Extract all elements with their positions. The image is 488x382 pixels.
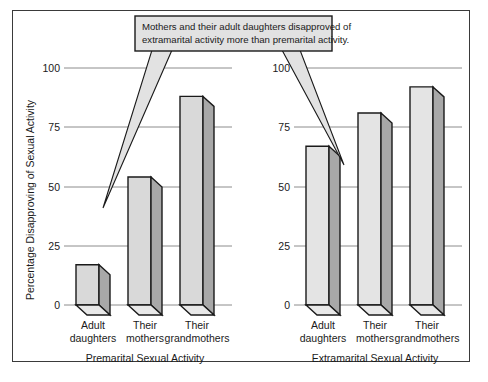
panel-title-premarital: Premarital Sexual Activity <box>86 352 205 364</box>
callout-text-line-1: Mothers and their adult daughters disapp… <box>142 21 351 32</box>
xtick-label-left-0-line2: daughters <box>70 332 117 344</box>
bar-right-their-mothers <box>358 113 392 315</box>
ytick-label-25-right: 25 <box>278 240 290 252</box>
ytick-label-50-left: 50 <box>48 181 60 193</box>
chart-svg: 100 75 50 25 0 <box>0 0 488 382</box>
bar-left-their-grandmothers <box>180 96 214 315</box>
ytick-label-50-right: 50 <box>278 181 290 193</box>
ytick-label-75-left: 75 <box>48 121 60 133</box>
xtick-label-left-1-line2: mothers <box>126 332 164 344</box>
ytick-label-0-right: 0 <box>284 299 290 311</box>
panel-title-extramarital: Extramarital Sexual Activity <box>312 352 439 364</box>
xtick-label-right-2-line2: grandmothers <box>395 332 460 344</box>
bar-right-adult-daughters <box>306 146 340 315</box>
yticks-left <box>64 68 72 305</box>
xtick-label-left-1-line1: Their <box>133 319 157 331</box>
figure-container: 100 75 50 25 0 <box>0 0 488 382</box>
xtick-label-right-1-line1: Their <box>363 319 387 331</box>
ytick-label-25-left: 25 <box>48 240 60 252</box>
xtick-label-right-0-line1: Adult <box>311 319 335 331</box>
xtick-label-right-1-line2: mothers <box>356 332 394 344</box>
bar-left-adult-daughters <box>76 265 110 315</box>
xtick-label-right-0-line2: daughters <box>300 332 347 344</box>
xtick-label-right-2-line1: Their <box>415 319 439 331</box>
ytick-label-100-left: 100 <box>42 62 60 74</box>
xtick-label-left-0-line1: Adult <box>81 319 105 331</box>
bar-left-their-mothers <box>128 177 162 315</box>
yticks-right <box>294 68 302 305</box>
bar-right-their-grandmothers <box>410 87 444 315</box>
ytick-label-75-right: 75 <box>278 121 290 133</box>
y-axis-title: Percentage Disapproving of Sexual Activi… <box>24 99 36 300</box>
callout-text-line-2: extramarital activity more than premarit… <box>142 34 349 45</box>
panel-extramarital: 100 75 50 25 0 <box>272 62 462 365</box>
xtick-label-left-2-line2: grandmothers <box>165 332 230 344</box>
xtick-label-left-2-line1: Their <box>185 319 209 331</box>
ytick-label-0-left: 0 <box>54 299 60 311</box>
callout-box: Mothers and their adult daughters disapp… <box>135 16 351 51</box>
ytick-label-100-right: 100 <box>272 62 290 74</box>
